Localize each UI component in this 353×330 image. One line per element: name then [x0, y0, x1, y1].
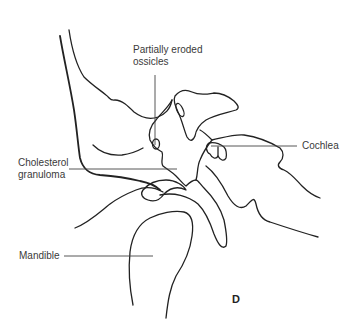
- tympanic-floor: [93, 145, 143, 155]
- incus-ellipse: [174, 102, 185, 117]
- label-cochlea: Cochlea: [302, 140, 339, 152]
- label-cholesterol-granuloma: Cholesterol granuloma: [18, 157, 69, 181]
- ossicle-granuloma-complex: [149, 100, 212, 186]
- label-mandible: Mandible: [19, 250, 60, 262]
- temporal-lower-slope: [75, 188, 163, 228]
- panel-letter: D: [232, 293, 240, 305]
- mandible-condyle: [129, 211, 193, 318]
- ear-anatomy-diagram: Partially eroded ossicles Cochlea Choles…: [0, 0, 353, 330]
- cochlea-outline: [206, 143, 226, 160]
- petrous-lower-contour: [206, 166, 318, 237]
- label-partially-eroded-ossicles: Partially eroded ossicles: [133, 44, 202, 68]
